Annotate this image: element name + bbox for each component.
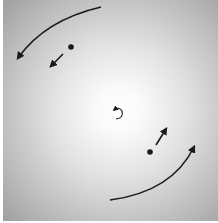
outer-rotation-arrow-bottom-icon — [110, 147, 194, 200]
outer-rotation-arrow-top-icon — [18, 7, 101, 58]
center-rotation-arrow-icon — [114, 108, 122, 119]
velocity-arrow-upper-left-icon — [51, 54, 63, 66]
rotation-diagram — [0, 0, 218, 223]
particle-upper-left — [68, 44, 74, 50]
velocity-arrow-lower-right-icon — [156, 129, 166, 145]
particle-lower-right — [147, 149, 153, 155]
